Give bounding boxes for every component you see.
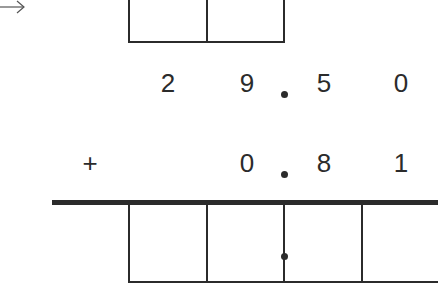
- digit-ones: 9: [232, 68, 262, 98]
- plus-operator: +: [75, 148, 105, 178]
- digit-tenths: 8: [309, 148, 339, 178]
- top-box-right-edge: [283, 0, 285, 43]
- digit-tenths: 5: [309, 68, 339, 98]
- carry-box-2[interactable]: [208, 0, 283, 41]
- arrow-right-icon: [0, 0, 26, 14]
- decimal-point: [281, 91, 288, 98]
- digit-hundredths: 1: [386, 148, 416, 178]
- answer-box-tenths[interactable]: [285, 205, 361, 281]
- top-box-bottom-edge: [128, 41, 285, 43]
- answer-box-bottom-edge: [128, 281, 438, 283]
- digit-hundredths: 0: [386, 68, 416, 98]
- answer-box-tens[interactable]: [130, 205, 206, 281]
- answer-box-ones[interactable]: [208, 205, 283, 281]
- digit-ones: 0: [232, 148, 262, 178]
- answer-box-hundredths[interactable]: [363, 205, 438, 281]
- decimal-point: [281, 171, 288, 178]
- carry-box-1[interactable]: [130, 0, 206, 41]
- digit-tens: 2: [153, 68, 183, 98]
